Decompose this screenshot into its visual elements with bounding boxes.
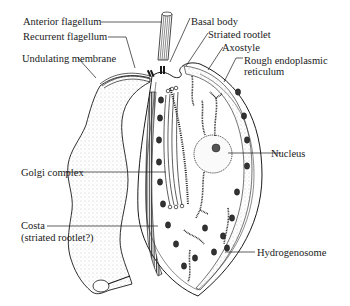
label-anterior-flagellum: Anterior flagellum <box>23 16 101 27</box>
label-hydrogenosome: Hydrogenosome <box>257 247 326 258</box>
trichomonad-diagram: Anterior flagellum Recurrent flagellum U… <box>0 0 350 306</box>
label-undulating-membrane: Undulating membrane <box>22 53 116 64</box>
label-golgi-complex: Golgi complex <box>21 167 84 178</box>
label-rough-er-line1: Rough endoplasmic <box>244 55 328 66</box>
label-costa-note: (striated rootlet?) <box>21 232 94 243</box>
label-costa: Costa <box>21 220 45 231</box>
label-basal-body: Basal body <box>191 16 238 27</box>
anterior-flagella <box>158 12 172 60</box>
label-nucleus: Nucleus <box>271 148 305 159</box>
label-striated-rootlet: Striated rootlet <box>208 29 271 40</box>
label-rough-er-line2: reticulum <box>244 66 284 77</box>
label-axostyle: Axostyle <box>222 42 260 53</box>
label-recurrent-flagellum: Recurrent flagellum <box>23 31 107 42</box>
nucleus-shape <box>194 135 232 173</box>
